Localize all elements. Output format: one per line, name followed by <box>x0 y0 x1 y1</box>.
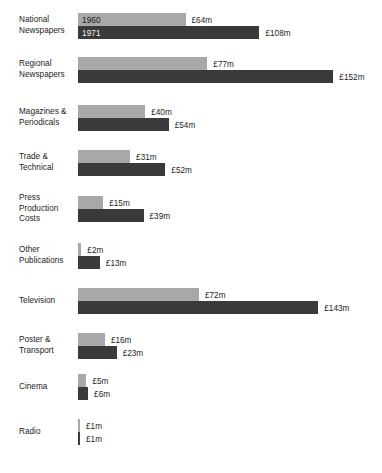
bar-1960 <box>78 419 80 432</box>
bar-value-label: £13m <box>106 258 127 267</box>
bar-1960 <box>78 333 105 346</box>
bar-value-label: £1m <box>86 421 102 430</box>
bar-1971 <box>78 432 80 445</box>
category-label: Poster & Transport <box>19 335 75 356</box>
category-label: Trade & Technical <box>19 152 75 173</box>
bar-value-label: £39m <box>150 211 171 220</box>
bar-value-label: £1m <box>86 434 102 443</box>
category-label: Television <box>19 296 75 307</box>
bar-value-label: £23m <box>123 348 144 357</box>
chart-row: National Newspapers1960£64m1971£108m <box>0 13 382 39</box>
bar-1960 <box>78 105 145 118</box>
chart-row: Radio£1m£1m <box>0 419 382 445</box>
chart-row: Regional Newspapers£77m£152m <box>0 57 382 83</box>
category-label: Press Production Costs <box>19 193 75 225</box>
bar-1971: 1971 <box>78 26 259 39</box>
chart-row: Press Production Costs£15m£39m <box>0 196 382 222</box>
chart-row: Poster & Transport£16m£23m <box>0 333 382 359</box>
bar-value-label: £6m <box>94 389 110 398</box>
bar-1971 <box>78 387 88 400</box>
category-label: Cinema <box>19 382 75 393</box>
legend-label-1971: 1971 <box>82 28 101 37</box>
bar-value-label: £77m <box>213 59 234 68</box>
chart-row: Cinema£5m£6m <box>0 374 382 400</box>
bar-value-label: £16m <box>111 335 132 344</box>
bar-value-label: £2m <box>87 245 103 254</box>
bar-value-label: £64m <box>192 15 213 24</box>
category-label: Regional Newspapers <box>19 59 75 80</box>
bar-value-label: £15m <box>109 198 130 207</box>
bar-1971 <box>78 256 100 269</box>
category-label: Other Publications <box>19 245 75 266</box>
bar-value-label: £40m <box>151 107 172 116</box>
bar-1960 <box>78 243 81 256</box>
category-label: Radio <box>19 427 75 438</box>
chart-row: Magazines & Periodicals£40m£54m <box>0 105 382 131</box>
bar-1971 <box>78 209 144 222</box>
bar-1971 <box>78 118 169 131</box>
bar-1960 <box>78 57 207 70</box>
category-label: Magazines & Periodicals <box>19 107 75 128</box>
category-label: National Newspapers <box>19 15 75 36</box>
bar-1960 <box>78 150 130 163</box>
chart-row: Other Publications£2m£13m <box>0 243 382 269</box>
bar-1960 <box>78 374 86 387</box>
bar-1971 <box>78 301 318 314</box>
bar-value-label: £72m <box>205 290 226 299</box>
bar-1960 <box>78 288 199 301</box>
bar-1971 <box>78 346 117 359</box>
legend-label-1960: 1960 <box>82 15 101 24</box>
bar-value-label: £108m <box>265 28 290 37</box>
bar-1960: 1960 <box>78 13 186 26</box>
bar-value-label: £152m <box>339 72 364 81</box>
bar-value-label: £143m <box>324 303 349 312</box>
bar-value-label: £5m <box>92 376 108 385</box>
chart-row: Trade & Technical£31m£52m <box>0 150 382 176</box>
chart-row: Television£72m£143m <box>0 288 382 314</box>
bar-value-label: £31m <box>136 152 157 161</box>
advertising-expenditure-bar-chart: National Newspapers1960£64m1971£108mRegi… <box>0 0 382 473</box>
bar-value-label: £54m <box>175 120 196 129</box>
bar-value-label: £52m <box>171 165 192 174</box>
bar-1971 <box>78 163 165 176</box>
bar-1960 <box>78 196 103 209</box>
bar-1971 <box>78 70 333 83</box>
